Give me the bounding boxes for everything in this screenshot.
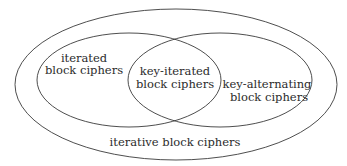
venn-diagram: iterated block ciphers key-iterated bloc… [0, 0, 347, 166]
iterated-label-line2: block ciphers [45, 63, 123, 77]
key-iterated-label-line2: block ciphers [136, 77, 214, 91]
key-alternating-label-line2: block ciphers [230, 90, 308, 104]
key-iterated-label-line1: key-iterated [140, 64, 211, 78]
key-alternating-label-line1: key-alternating [223, 77, 313, 91]
iterative-label: iterative block ciphers [110, 135, 241, 149]
